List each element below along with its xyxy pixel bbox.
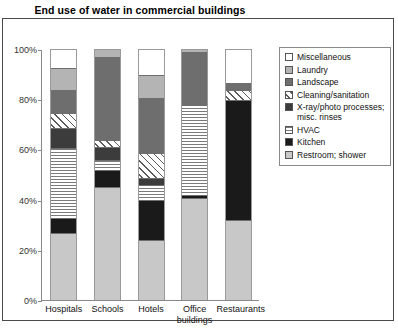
legend-label: Kitchen <box>297 137 325 147</box>
bar-segment-laundry <box>139 75 164 98</box>
bar-segment-misc <box>226 50 251 83</box>
chart-title: End use of water in commercial buildings <box>0 4 280 16</box>
x-axis-label: Hotels <box>129 304 173 315</box>
bar-segment-landscape <box>51 90 76 113</box>
bar-hotels[interactable] <box>138 49 165 300</box>
legend-label: Laundry <box>297 65 328 75</box>
bar-segment-kitchen <box>95 170 120 188</box>
x-axis-label: Hospitals <box>42 304 86 315</box>
bar-segment-cleaning <box>95 140 120 147</box>
legend-swatch-kitchen-icon <box>285 138 293 146</box>
legend-item-landscape[interactable]: Landscape <box>285 77 386 87</box>
bar-segment-restroom <box>139 240 164 300</box>
bar-segment-kitchen <box>139 200 164 240</box>
bar-segment-landscape <box>95 57 120 140</box>
legend-item-cleaning[interactable]: Cleaning/sanitation <box>285 90 386 100</box>
bar-segment-laundry <box>95 50 120 57</box>
bar-segment-landscape <box>182 52 207 105</box>
legend-swatch-landscape-icon <box>285 78 293 86</box>
legend-item-misc[interactable]: Miscellaneous <box>285 52 386 62</box>
bar-segment-restroom <box>95 187 120 300</box>
legend-label: X-ray/photo processes; misc. rinses <box>297 102 384 122</box>
x-axis-label: Office buildings <box>173 304 217 326</box>
legend-swatch-hvac-icon <box>285 126 293 134</box>
bar-segment-restroom <box>182 198 207 301</box>
bar-segment-cleaning <box>51 113 76 128</box>
legend-item-restroom[interactable]: Restroom; shower <box>285 150 386 160</box>
y-axis-tick: 20% <box>19 246 42 256</box>
legend-label: Landscape <box>297 77 339 87</box>
legend-item-kitchen[interactable]: Kitchen <box>285 137 386 147</box>
y-axis-tick: 80% <box>19 95 42 105</box>
bar-schools[interactable] <box>94 49 121 300</box>
bar-office-buildings[interactable] <box>181 49 208 300</box>
legend-label: Restroom; shower <box>297 150 366 160</box>
legend-label: Miscellaneous <box>297 52 351 62</box>
x-axis-label: Schools <box>86 304 130 315</box>
legend-label: HVAC <box>297 125 320 135</box>
bar-segment-kitchen <box>51 218 76 233</box>
bar-segment-laundry <box>51 68 76 91</box>
bar-segment-xray <box>139 178 164 185</box>
plot-area: 0%20%40%60%80%100%HospitalsSchoolsHotels… <box>41 50 259 301</box>
legend-swatch-laundry-icon <box>285 66 293 74</box>
y-axis-tick: 0% <box>24 296 42 306</box>
legend-swatch-cleaning-icon <box>285 91 293 99</box>
x-axis-label: Restaurants <box>216 304 260 315</box>
bar-segment-hvac <box>95 160 120 170</box>
figure-frame: 0%20%40%60%80%100%HospitalsSchoolsHotels… <box>2 18 394 321</box>
bar-restaurants[interactable] <box>225 49 252 300</box>
bar-segment-misc <box>51 50 76 68</box>
legend-item-laundry[interactable]: Laundry <box>285 65 386 75</box>
chart-legend: MiscellaneousLaundryLandscapeCleaning/sa… <box>279 47 391 166</box>
legend-item-hvac[interactable]: HVAC <box>285 125 386 135</box>
y-axis-tick: 40% <box>19 196 42 206</box>
y-axis-tick: 100% <box>14 45 42 55</box>
bar-segment-kitchen <box>226 100 251 220</box>
bar-segment-restroom <box>226 220 251 300</box>
bar-segment-cleaning <box>139 153 164 178</box>
legend-item-xray[interactable]: X-ray/photo processes; misc. rinses <box>285 102 386 122</box>
bar-segment-landscape <box>226 83 251 90</box>
legend-swatch-misc-icon <box>285 53 293 61</box>
bar-segment-restroom <box>51 233 76 301</box>
y-axis-tick: 60% <box>19 145 42 155</box>
bar-segment-misc <box>139 50 164 75</box>
bar-segment-cleaning <box>226 90 251 100</box>
legend-swatch-restroom-icon <box>285 151 293 159</box>
bar-segment-hvac <box>139 185 164 200</box>
bar-segment-landscape <box>139 98 164 153</box>
chart-screenshot: End use of water in commercial buildings… <box>0 0 398 331</box>
bar-segment-xray <box>51 128 76 148</box>
bar-segment-xray <box>95 147 120 160</box>
legend-swatch-xray-icon <box>285 103 293 111</box>
bar-segment-hvac <box>182 105 207 195</box>
bar-hospitals[interactable] <box>50 49 77 300</box>
bar-segment-hvac <box>51 148 76 218</box>
legend-label: Cleaning/sanitation <box>297 90 369 100</box>
